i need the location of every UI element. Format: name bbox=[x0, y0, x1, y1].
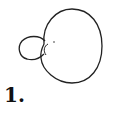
center-dot bbox=[53, 41, 55, 43]
figure-number-label: 1. bbox=[4, 85, 25, 105]
figure-canvas: 1. bbox=[0, 0, 114, 113]
inner-arc bbox=[44, 44, 48, 55]
small-loop bbox=[19, 37, 45, 60]
large-circle bbox=[41, 9, 102, 83]
